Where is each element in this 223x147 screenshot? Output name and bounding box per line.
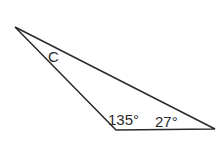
- angle-label-c: C: [48, 48, 59, 65]
- angle-label-135: 135°: [108, 111, 139, 128]
- triangle-diagram: C 135° 27°: [0, 0, 223, 147]
- angle-label-27: 27°: [155, 113, 178, 130]
